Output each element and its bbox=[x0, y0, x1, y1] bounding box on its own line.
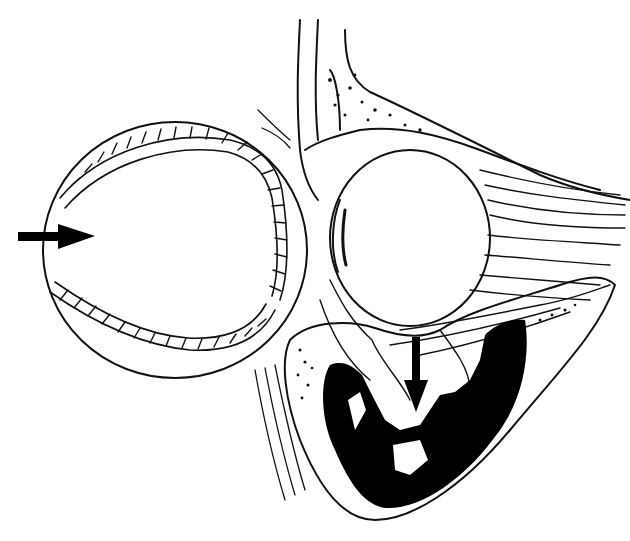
eyeball bbox=[330, 150, 490, 326]
cheek-soft-tissue bbox=[255, 110, 305, 500]
blowout-fracture-illustration bbox=[0, 0, 630, 541]
baseball bbox=[43, 122, 307, 378]
illustration-svg bbox=[0, 0, 630, 541]
impact-arrow bbox=[18, 224, 95, 249]
floor-fracture-arrow bbox=[404, 337, 428, 412]
orbital-fat-and-muscles bbox=[320, 170, 625, 400]
